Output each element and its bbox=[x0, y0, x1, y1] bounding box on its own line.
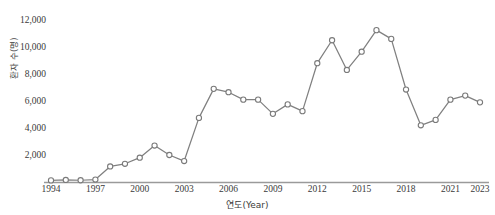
data-series-line bbox=[51, 30, 480, 180]
data-point-markers bbox=[48, 28, 482, 183]
x-axis-title: 연도(Year) bbox=[0, 198, 495, 211]
chart-container: 환자 수(명) 12,00010,0008,0006,0004,0002,000… bbox=[0, 0, 495, 215]
line-plot bbox=[0, 0, 495, 215]
